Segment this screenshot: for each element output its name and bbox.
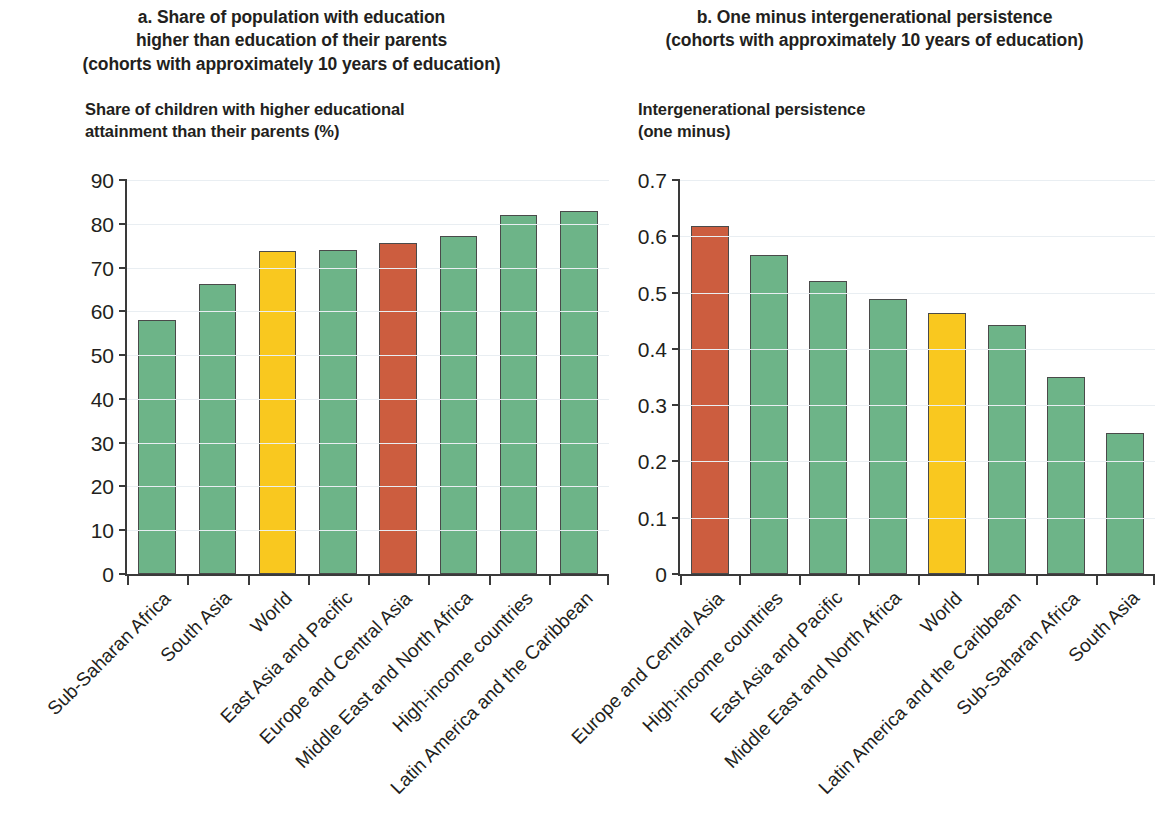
x-axis-label: World <box>917 588 965 636</box>
figure: a. Share of population with education hi… <box>0 0 1166 835</box>
panel-a-x-axis-labels: Sub-Saharan AfricaSouth AsiaWorldEast As… <box>0 0 583 835</box>
x-axis-label: World <box>247 588 295 636</box>
x-axis-label: Sub-Saharan Africa <box>44 588 174 718</box>
panel-b-x-axis-labels: Europe and Central AsiaHigh-income count… <box>583 0 1166 835</box>
panel-b: b. One minus intergenerational persisten… <box>583 0 1166 835</box>
panel-a: a. Share of population with education hi… <box>0 0 583 835</box>
